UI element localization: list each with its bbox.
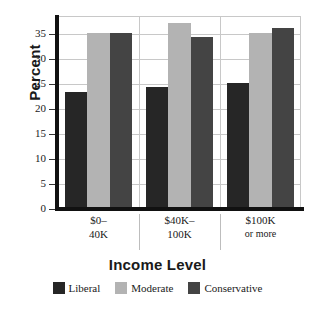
category-label-line: $100K <box>220 214 301 228</box>
legend-item-liberal[interactable]: Liberal <box>53 282 101 294</box>
bar-moderate-group-1 <box>87 33 109 209</box>
chart-legend: LiberalModerateConservative <box>0 282 315 294</box>
category-label-3: $100Kor more <box>220 214 301 240</box>
bar-chart-figure: Percent 05101520253035 $0–40K$40K–100K$1… <box>0 0 315 317</box>
bar-moderate-group-2 <box>168 23 190 209</box>
y-axis-spine <box>55 15 59 211</box>
legend-label-conservative: Conservative <box>204 282 262 294</box>
category-label-line: $40K– <box>139 214 220 228</box>
y-tick-label-20: 20 <box>10 103 46 114</box>
legend-swatch-moderate <box>115 282 127 294</box>
axis-label-separator-2 <box>220 214 221 250</box>
bar-conservative-group-1 <box>110 33 132 210</box>
category-label-line: or more <box>220 228 301 241</box>
y-tick-label-0: 0 <box>10 203 46 214</box>
bar-liberal-group-1 <box>65 92 87 209</box>
category-label-line: $0– <box>58 214 139 228</box>
bar-moderate-group-3 <box>249 33 271 209</box>
legend-item-moderate[interactable]: Moderate <box>115 282 173 294</box>
y-tick-label-35: 35 <box>10 28 46 39</box>
y-tick-label-30: 30 <box>10 53 46 64</box>
y-tick-label-25: 25 <box>10 78 46 89</box>
x-axis-title: Income Level <box>0 256 315 273</box>
legend-swatch-liberal <box>53 282 65 294</box>
bar-conservative-group-2 <box>191 37 213 210</box>
plot-area <box>58 16 301 209</box>
bar-liberal-group-3 <box>227 83 249 210</box>
axis-label-separator-1 <box>139 214 140 250</box>
category-label-2: $40K–100K <box>139 214 220 242</box>
category-separator-2 <box>220 16 221 209</box>
category-label-line: 40K <box>58 228 139 242</box>
legend-item-conservative[interactable]: Conservative <box>188 282 262 294</box>
bar-conservative-group-3 <box>272 28 294 209</box>
legend-swatch-conservative <box>188 282 200 294</box>
y-tick-label-10: 10 <box>10 153 46 164</box>
category-label-line: 100K <box>139 228 220 242</box>
bar-liberal-group-2 <box>146 87 168 210</box>
y-tick-label-5: 5 <box>10 178 46 189</box>
y-tick-label-15: 15 <box>10 128 46 139</box>
category-label-1: $0–40K <box>58 214 139 242</box>
x-axis-spine <box>55 207 304 211</box>
legend-label-liberal: Liberal <box>69 282 101 294</box>
category-separator-1 <box>139 16 140 209</box>
legend-label-moderate: Moderate <box>131 282 173 294</box>
